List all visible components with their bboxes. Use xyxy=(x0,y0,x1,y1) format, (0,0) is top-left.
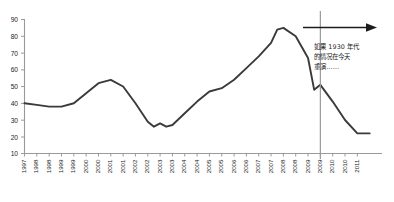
annotation-line-1: 如果 1930 年代 xyxy=(314,42,390,52)
annotation-text: 如果 1930 年代 的情况在今天 重演…… xyxy=(314,42,390,73)
forecast-arrow-icon xyxy=(303,23,377,32)
y-axis-tick-labels: 90 80 70 60 50 40 30 20 10 xyxy=(11,16,19,157)
x-tick-label: 2002 xyxy=(131,159,138,173)
chart-container: 90 80 70 60 50 40 30 20 10 1997199819981… xyxy=(0,0,394,202)
x-tick-label: 1999 xyxy=(69,159,76,173)
x-tick-label: 2004 xyxy=(193,159,200,173)
y-tick-label: 70 xyxy=(11,50,19,57)
y-tick-label: 80 xyxy=(11,33,19,40)
y-tick-label: 30 xyxy=(11,117,19,124)
x-tick-label: 2011 xyxy=(353,159,360,173)
x-tick-label: 2007 xyxy=(267,159,274,173)
x-tick-label: 2005 xyxy=(205,159,212,173)
y-tick-label: 10 xyxy=(11,150,19,157)
x-tick-label: 2000 xyxy=(94,159,101,173)
annotation-line-3: 重演…… xyxy=(314,62,390,72)
x-tick-label: 1998 xyxy=(45,159,52,173)
y-tick-label: 60 xyxy=(11,66,19,73)
x-tick-label: 2008 xyxy=(291,159,298,173)
x-tick-label: 1999 xyxy=(57,159,64,173)
y-tick-label: 40 xyxy=(11,100,19,107)
x-tick-label: 2003 xyxy=(156,159,163,173)
annotation-line-2: 的情况在今天 xyxy=(314,52,390,62)
line-chart: 90 80 70 60 50 40 30 20 10 1997199819981… xyxy=(0,0,394,202)
x-tick-label: 1997 xyxy=(20,159,27,173)
x-tick-label: 2007 xyxy=(254,159,261,173)
x-tick-label: 2006 xyxy=(242,159,249,173)
x-tick-label: 2009 xyxy=(316,159,323,173)
x-tick-label: 2010 xyxy=(328,159,335,173)
x-tick-label: 2001 xyxy=(119,159,126,173)
x-tick-label: 2005 xyxy=(217,159,224,173)
x-tick-label: 2006 xyxy=(230,159,237,173)
y-tick-label: 50 xyxy=(11,83,19,90)
x-tick-label: 2004 xyxy=(180,159,187,173)
x-tick-label: 2002 xyxy=(143,159,150,173)
x-tick-label: 2000 xyxy=(82,159,89,173)
y-tick-label: 90 xyxy=(11,16,19,23)
x-tick-label: 1998 xyxy=(32,159,39,173)
x-axis-tick-labels: 1997199819981999199920002000200120012002… xyxy=(20,159,360,173)
x-tick-label: 2008 xyxy=(279,159,286,173)
x-tick-label: 2003 xyxy=(168,159,175,173)
x-tick-label: 2001 xyxy=(106,159,113,173)
y-tick-label: 20 xyxy=(11,134,19,141)
x-tick-label: 2009 xyxy=(304,159,311,173)
x-tick-label: 2010 xyxy=(341,159,348,173)
